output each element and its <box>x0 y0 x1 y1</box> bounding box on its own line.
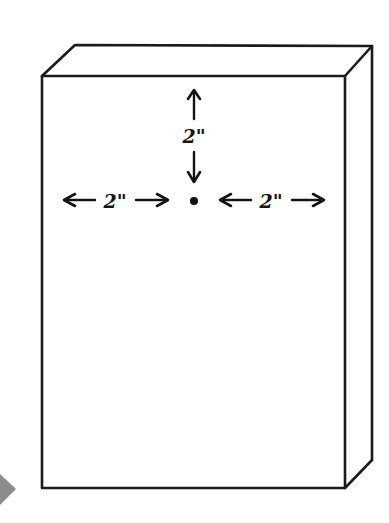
box-diagram-svg: 2" 2" 2" <box>0 0 389 523</box>
box-drawing <box>42 45 372 488</box>
scroll-chevron-left-icon[interactable] <box>0 474 16 505</box>
left-horizontal-measurement-label: 2" <box>102 190 126 212</box>
box-right-side-face <box>345 46 372 488</box>
center-point-dot <box>190 197 198 205</box>
box-top-face <box>42 45 372 76</box>
vertical-measurement-label: 2" <box>181 125 205 147</box>
right-horizontal-measurement-label: 2" <box>258 190 282 212</box>
diagram-canvas: 2" 2" 2" <box>0 0 389 523</box>
